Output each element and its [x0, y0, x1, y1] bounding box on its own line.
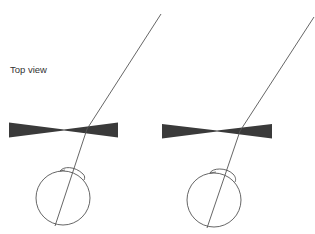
right-panel	[162, 17, 314, 228]
left-panel	[9, 14, 161, 226]
right-bowtie	[162, 124, 272, 139]
right-ray-line	[207, 17, 314, 228]
left-eye-circle	[36, 171, 90, 225]
diagram-canvas	[0, 0, 315, 234]
left-ray-line	[55, 14, 161, 226]
right-eye-circle	[187, 173, 241, 227]
left-bowtie	[9, 123, 118, 138]
